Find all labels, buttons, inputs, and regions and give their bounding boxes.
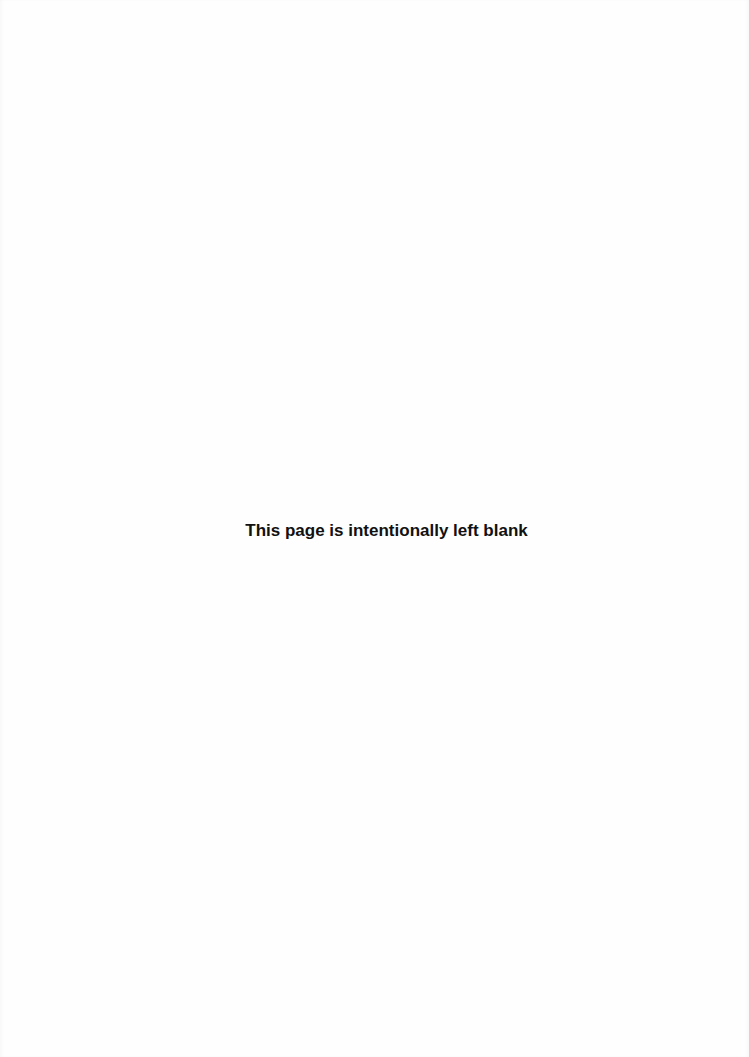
blank-page-notice-container: This page is intentionally left blank <box>0 520 749 542</box>
document-page: This page is intentionally left blank <box>0 0 749 1057</box>
blank-page-notice: This page is intentionally left blank <box>245 520 527 542</box>
